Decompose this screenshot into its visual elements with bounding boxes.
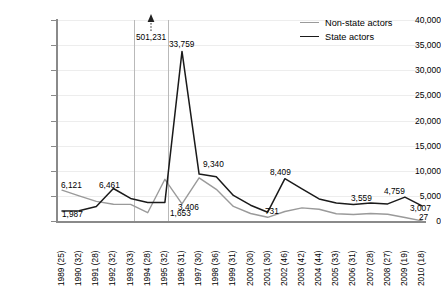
x-tick-label-2005: 2005 (33) bbox=[331, 222, 340, 286]
x-tick-label-1993: 1993 (33) bbox=[126, 222, 135, 286]
x-tick-label-1990: 1990 (32) bbox=[74, 222, 83, 286]
x-tick-label-1999: 1999 (31) bbox=[228, 222, 237, 286]
legend: Non-state actors State actors bbox=[300, 16, 392, 44]
value-label-731: 731 bbox=[265, 207, 279, 216]
legend-item-state-actors[interactable]: State actors bbox=[300, 30, 392, 43]
x-tick-label-2004: 2004 (44) bbox=[314, 222, 323, 286]
annotation-label-501231: 501,231 bbox=[136, 33, 166, 42]
x-tick-label-1989: 1989 (25) bbox=[57, 222, 66, 286]
off-scale-arrow-icon bbox=[148, 14, 155, 31]
legend-label-state-actors: State actors bbox=[325, 32, 374, 42]
legend-swatch-icon-non-state-actors bbox=[300, 22, 319, 23]
x-tick-label-1998: 1998 (36) bbox=[211, 222, 220, 286]
value-label-6461: 6,461 bbox=[99, 181, 120, 190]
legend-item-non-state-actors[interactable]: Non-state actors bbox=[300, 16, 392, 29]
legend-label-non-state-actors: Non-state actors bbox=[325, 18, 392, 28]
value-label-3406: 3,406 bbox=[178, 203, 199, 212]
legend-swatch-icon-state-actors bbox=[300, 36, 319, 37]
x-tick-label-1992: 1992 (32) bbox=[108, 222, 117, 286]
x-tick-label-1994: 1994 (28) bbox=[143, 222, 152, 286]
x-tick-label-1997: 1997 (30) bbox=[194, 222, 203, 286]
x-tick-label-2000: 2000 (30) bbox=[246, 222, 255, 286]
value-label-3559: 3,559 bbox=[351, 194, 372, 203]
x-tick-label-2007: 2007 (28) bbox=[366, 222, 375, 286]
x-tick-label-1991: 1991 (28) bbox=[91, 222, 100, 286]
x-tick-label-2009: 2009 (19) bbox=[400, 222, 409, 286]
x-tick-label-1996: 1996 (31) bbox=[177, 222, 186, 286]
line-chart: 40,000 35,000 30,000 25,000 20,000 15,00… bbox=[0, 0, 441, 288]
x-tick-label-2002: 2002 (46) bbox=[280, 222, 289, 286]
x-tick-label-1995: 1995 (32) bbox=[160, 222, 169, 286]
value-label-27: 27 bbox=[419, 213, 428, 222]
value-label-9340: 9,340 bbox=[203, 160, 224, 169]
value-label-33759: 33,759 bbox=[169, 40, 194, 49]
x-tick-label-2006: 2006 (31) bbox=[348, 222, 357, 286]
x-tick-label-2003: 2003 (42) bbox=[297, 222, 306, 286]
x-tick-label-2010: 2010 (18) bbox=[417, 222, 426, 286]
value-label-1987: 1,987 bbox=[62, 210, 83, 219]
x-tick-label-2001: 2001 (30) bbox=[263, 222, 272, 286]
value-label-8409: 8,409 bbox=[270, 168, 291, 177]
value-label-6121: 6,121 bbox=[61, 181, 82, 190]
x-tick-label-2008: 2008 (27) bbox=[383, 222, 392, 286]
value-label-4759: 4,759 bbox=[384, 187, 405, 196]
